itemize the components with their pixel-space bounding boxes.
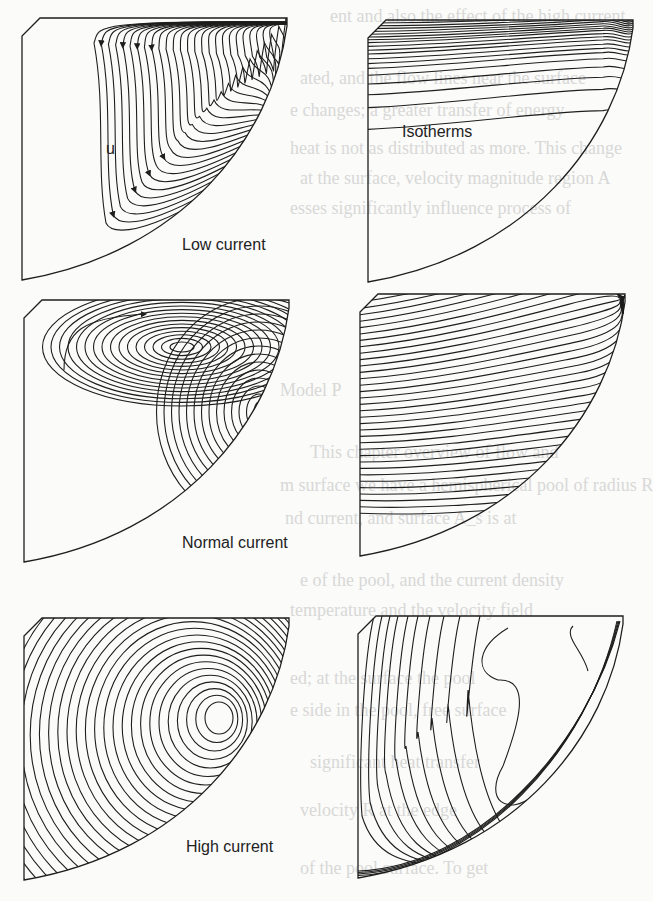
- label-u: u: [106, 140, 115, 158]
- panel-normal-current-isotherms: [360, 247, 642, 556]
- panel-normal-current-streamlines: [24, 288, 362, 562]
- panel-low-current-isotherms: [368, 15, 633, 282]
- panel-high-current-isotherms: [358, 616, 623, 878]
- label-high-current: High current: [186, 838, 273, 856]
- label-normal-current: Normal current: [182, 534, 288, 552]
- label-low-current: Low current: [182, 236, 266, 254]
- label-isotherms: Isotherms: [402, 123, 472, 141]
